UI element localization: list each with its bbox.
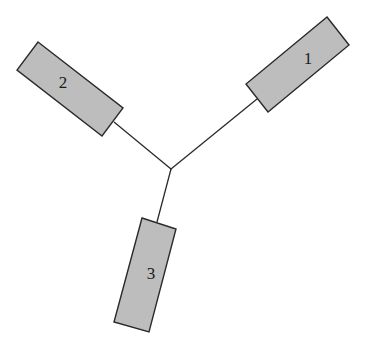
node-2-box [17, 42, 123, 136]
node-1: 1 [246, 17, 349, 112]
junction-point [170, 168, 172, 170]
connector-3 [157, 169, 171, 222]
node-2-label: 2 [59, 73, 68, 92]
node-3: 3 [114, 218, 176, 332]
diagram-svg: 1 2 3 [0, 0, 367, 353]
node-1-box [246, 17, 349, 112]
node-1-label: 1 [304, 49, 313, 68]
connector-1 [171, 99, 257, 169]
node-3-label: 3 [147, 264, 156, 283]
connector-2 [114, 122, 171, 169]
node-3-box [114, 218, 176, 332]
diagram-canvas: 1 2 3 [0, 0, 367, 353]
node-2: 2 [17, 42, 123, 136]
